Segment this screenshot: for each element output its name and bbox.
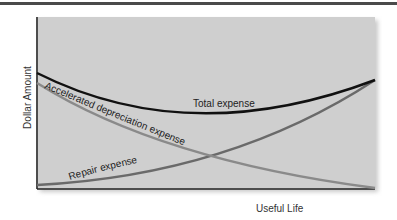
x-axis-label: Useful Life [256,203,303,214]
total-label: Total expense [193,98,255,109]
depreciation-label: Accelerated depreciation expense [43,80,187,148]
y-axis-label: Dollar Amount [22,58,33,138]
chart-curves: Total expense Accelerated depreciation e… [0,0,397,220]
